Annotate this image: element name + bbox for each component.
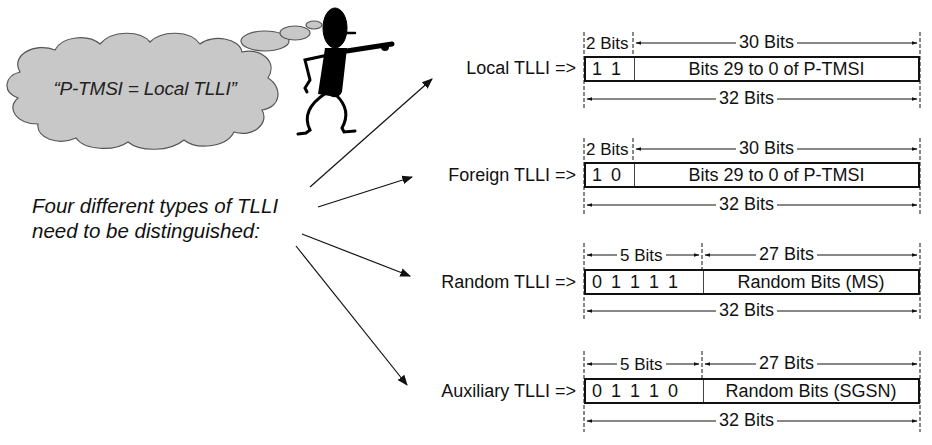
local-prefix-width: 2 Bits xyxy=(585,35,630,52)
local-prefix-bits: 1 1 xyxy=(586,58,635,80)
local-tlli-label: Local TLLI => xyxy=(466,58,576,79)
bit: 0 xyxy=(611,165,630,186)
random-rest-bits: Random Bits (MS) xyxy=(704,271,918,293)
random-prefix-width: 5 Bits xyxy=(617,247,666,264)
random-prefix-bits: 0 1 1 1 1 xyxy=(586,271,704,293)
auxiliary-total-width: 32 Bits xyxy=(716,412,777,429)
foreign-prefix-width: 2 Bits xyxy=(585,141,630,158)
bit: 1 xyxy=(668,272,687,293)
bit: 0 xyxy=(592,272,611,293)
bit: 1 xyxy=(611,381,630,402)
auxiliary-prefix-bits: 0 1 1 1 0 xyxy=(586,380,704,402)
bit: 0 xyxy=(668,381,687,402)
auxiliary-rest-width: 27 Bits xyxy=(756,355,817,372)
auxiliary-tlli-label: Auxiliary TLLI => xyxy=(441,381,576,402)
intro-line-2: need to be distinguished: xyxy=(32,218,278,243)
intro-line-1: Four different types of TLLI xyxy=(32,193,278,218)
local-tlli-field: 1 1 Bits 29 to 0 of P-TMSI xyxy=(584,56,920,82)
arrow-to-foreign xyxy=(318,177,412,207)
bit: 0 xyxy=(592,381,611,402)
bit: 1 xyxy=(630,272,649,293)
random-tlli-field: 0 1 1 1 1 Random Bits (MS) xyxy=(584,269,920,295)
auxiliary-prefix-width: 5 Bits xyxy=(617,356,666,373)
foreign-prefix-bits: 1 0 xyxy=(586,164,635,186)
arrow-to-auxiliary xyxy=(296,246,407,385)
foreign-tlli-label: Foreign TLLI => xyxy=(448,165,576,186)
thought-bubble-text: “P-TMSI = Local TLLI” xyxy=(30,78,260,100)
local-total-width: 32 Bits xyxy=(716,90,777,107)
foreign-rest-width: 30 Bits xyxy=(736,140,797,157)
bit: 1 xyxy=(611,272,630,293)
local-rest-bits: Bits 29 to 0 of P-TMSI xyxy=(635,58,918,80)
bit: 1 xyxy=(649,381,668,402)
bit: 1 xyxy=(611,59,630,80)
auxiliary-rest-bits: Random Bits (SGSN) xyxy=(704,380,918,402)
foreign-rest-bits: Bits 29 to 0 of P-TMSI xyxy=(635,164,918,186)
random-total-width: 32 Bits xyxy=(716,302,777,319)
bit: 1 xyxy=(649,272,668,293)
bit: 1 xyxy=(592,165,611,186)
bit: 1 xyxy=(630,381,649,402)
local-rest-width: 30 Bits xyxy=(736,34,797,51)
random-rest-width: 27 Bits xyxy=(756,246,817,263)
foreign-tlli-field: 1 0 Bits 29 to 0 of P-TMSI xyxy=(584,162,920,188)
auxiliary-tlli-field: 0 1 1 1 0 Random Bits (SGSN) xyxy=(584,378,920,404)
arrow-to-random xyxy=(302,234,410,276)
foreign-total-width: 32 Bits xyxy=(716,196,777,213)
intro-text: Four different types of TLLI need to be … xyxy=(32,193,278,243)
random-tlli-label: Random TLLI => xyxy=(441,272,576,293)
bit: 1 xyxy=(592,59,611,80)
